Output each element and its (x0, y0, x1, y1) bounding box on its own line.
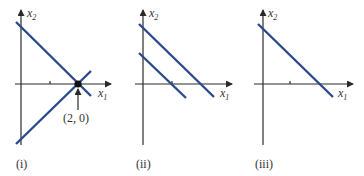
caption-iii: (iii) (255, 157, 273, 171)
caption-ii: (ii) (136, 157, 151, 171)
x1-label: x1 (97, 86, 107, 102)
x2-label: x2 (148, 6, 158, 22)
panel-iii: x2 x1 (iii) (254, 6, 353, 171)
x2-label: x2 (26, 6, 36, 22)
x1-label: x1 (219, 86, 229, 102)
panel-i: (2, 0) x2 x1 (i) (15, 6, 111, 171)
figure-canvas: (2, 0) x2 x1 (i) x2 x1 (ii) x2 x1 (iii) (0, 0, 364, 176)
caption-i: (i) (16, 157, 27, 171)
panel-ii: x2 x1 (ii) (135, 6, 232, 171)
lower-parallel-line (139, 53, 186, 98)
intersection-point (74, 80, 81, 87)
x1-label: x1 (337, 86, 347, 102)
point-label: (2, 0) (63, 111, 89, 125)
descending-line (258, 24, 333, 97)
x2-label: x2 (267, 6, 277, 22)
upper-parallel-line (139, 24, 214, 97)
